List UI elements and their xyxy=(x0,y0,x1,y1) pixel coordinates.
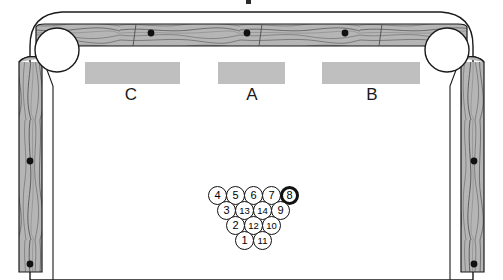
ball-number: 11 xyxy=(258,235,268,245)
right-rail xyxy=(461,57,484,272)
ball-number: 4 xyxy=(214,190,220,201)
ball-number: 7 xyxy=(268,190,274,201)
zone-rect-b xyxy=(322,62,420,84)
ball-number: 9 xyxy=(277,205,283,216)
ball-number: 3 xyxy=(223,205,229,216)
ball-number: 8 xyxy=(286,190,292,201)
ball-number: 13 xyxy=(239,205,250,215)
top-right-pocket xyxy=(425,28,469,72)
top-rail xyxy=(30,20,473,50)
zone-label-a: A xyxy=(232,85,272,105)
zone-rect-a xyxy=(218,62,285,84)
ball-number: 6 xyxy=(250,190,256,201)
ball-number: 2 xyxy=(232,220,238,231)
top-left-pocket xyxy=(35,28,79,72)
zone-label-c: C xyxy=(111,85,151,105)
ball-11[interactable]: 11 xyxy=(253,231,272,250)
ball-number: 10 xyxy=(266,220,277,230)
top-edge-mark xyxy=(246,0,251,4)
zone-label-b: B xyxy=(352,85,392,105)
ball-number: 14 xyxy=(257,205,268,215)
target-zones xyxy=(85,62,420,84)
ball-number: 1 xyxy=(241,235,247,246)
ball-1[interactable]: 1 xyxy=(235,231,254,250)
ball-number: 12 xyxy=(248,220,259,230)
ball-number: 5 xyxy=(232,190,238,201)
zone-rect-c xyxy=(85,62,180,84)
pool-table-diagram: C A B 4 5 6 7 8 3 13 14 9 xyxy=(0,0,503,280)
